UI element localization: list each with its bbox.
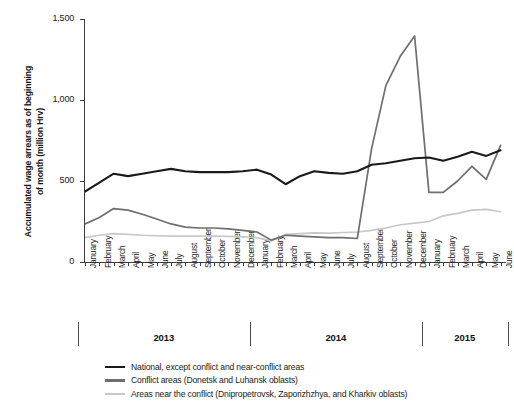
- y-axis-tick: [80, 19, 84, 20]
- x-axis-month-label: June: [504, 250, 514, 268]
- x-axis-year-separator: [422, 322, 423, 346]
- x-axis-tick: [257, 262, 258, 266]
- x-axis-tick: [286, 262, 287, 266]
- y-axis-tick: [80, 262, 84, 263]
- x-axis-tick: [486, 262, 487, 266]
- y-axis-tick-label: 1,500: [14, 13, 74, 23]
- x-axis-tick: [171, 262, 172, 266]
- x-axis-year-label: 2013: [134, 332, 194, 343]
- x-axis-tick: [386, 262, 387, 266]
- y-axis-tick-label: 0: [14, 256, 74, 266]
- chart-legend: National, except conflict and near-confl…: [105, 360, 505, 401]
- legend-label: National, except conflict and near-confl…: [131, 362, 304, 372]
- y-axis-tick: [80, 181, 84, 182]
- x-axis-tick: [472, 262, 473, 266]
- x-axis-tick: [214, 262, 215, 266]
- x-axis-year-label: 2014: [306, 332, 366, 343]
- x-axis-year-separator: [78, 322, 79, 346]
- x-axis-tick: [142, 262, 143, 266]
- series-line: [85, 36, 501, 240]
- x-axis-tick: [458, 262, 459, 266]
- plot-area: [85, 19, 505, 262]
- x-axis-tick: [185, 262, 186, 266]
- legend-item: National, except conflict and near-confl…: [105, 360, 505, 374]
- x-axis-tick: [357, 262, 358, 266]
- series-line: [85, 150, 501, 191]
- x-axis-tick: [329, 262, 330, 266]
- x-axis-tick: [314, 262, 315, 266]
- x-axis-tick: [501, 262, 502, 266]
- x-axis-tick: [300, 262, 301, 266]
- legend-item: Conflict areas (Donetsk and Luhansk obla…: [105, 374, 505, 388]
- y-axis-tick-label: 500: [14, 175, 74, 185]
- x-axis-tick: [128, 262, 129, 266]
- legend-swatch: [105, 366, 125, 369]
- y-axis-tick: [80, 100, 84, 101]
- x-axis-tick: [443, 262, 444, 266]
- x-axis-tick: [85, 262, 86, 266]
- legend-label: Conflict areas (Donetsk and Luhansk obla…: [131, 375, 298, 385]
- x-axis-tick: [429, 262, 430, 266]
- x-axis-tick: [243, 262, 244, 266]
- x-axis-tick: [271, 262, 272, 266]
- x-axis-year-label: 2015: [435, 332, 495, 343]
- x-axis-tick: [343, 262, 344, 266]
- x-axis-tick: [228, 262, 229, 266]
- x-axis-tick: [415, 262, 416, 266]
- x-axis-year-separator: [250, 322, 251, 346]
- y-axis-title: Accumulated wage arrears as of beginning…: [23, 32, 46, 272]
- x-axis-tick: [400, 262, 401, 266]
- legend-swatch: [105, 393, 125, 396]
- y-axis-tick-label: 1,000: [14, 94, 74, 104]
- legend-item: Areas near the conflict (Dnipropetrovsk,…: [105, 387, 505, 401]
- legend-swatch: [105, 379, 125, 382]
- legend-label: Areas near the conflict (Dnipropetrovsk,…: [131, 389, 407, 399]
- x-axis-tick: [114, 262, 115, 266]
- x-axis-tick: [200, 262, 201, 266]
- x-axis-year-separator: [508, 322, 509, 346]
- x-axis-tick: [372, 262, 373, 266]
- x-axis-tick: [157, 262, 158, 266]
- x-axis-tick: [99, 262, 100, 266]
